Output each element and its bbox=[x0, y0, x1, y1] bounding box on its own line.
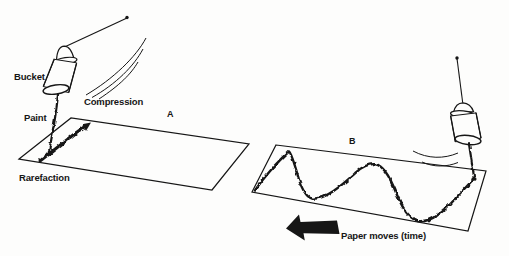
pendulum-right bbox=[413, 56, 481, 166]
label-rarefaction: Rarefaction bbox=[19, 173, 70, 183]
paper-sheet-b bbox=[252, 145, 486, 231]
pendulum-string-left bbox=[65, 18, 128, 47]
pendulum-left bbox=[42, 16, 146, 99]
label-panel-a: A bbox=[167, 110, 173, 119]
swing-motion-lines-left bbox=[86, 38, 146, 99]
figure-line-art bbox=[0, 0, 509, 256]
label-paint: Paint bbox=[24, 113, 46, 123]
pendulum-paint-wave-figure: Bucket Compression Paint Rarefaction A B… bbox=[0, 0, 509, 256]
paper-motion-arrow bbox=[286, 215, 340, 241]
label-panel-b: B bbox=[349, 137, 355, 146]
label-paper-moves: Paper moves (time) bbox=[341, 231, 426, 241]
label-bucket: Bucket bbox=[14, 72, 45, 82]
label-compression: Compression bbox=[84, 97, 143, 107]
bucket-left-shape bbox=[42, 46, 77, 96]
pendulum-string-right bbox=[457, 59, 463, 104]
bucket-right-shape bbox=[450, 103, 481, 146]
